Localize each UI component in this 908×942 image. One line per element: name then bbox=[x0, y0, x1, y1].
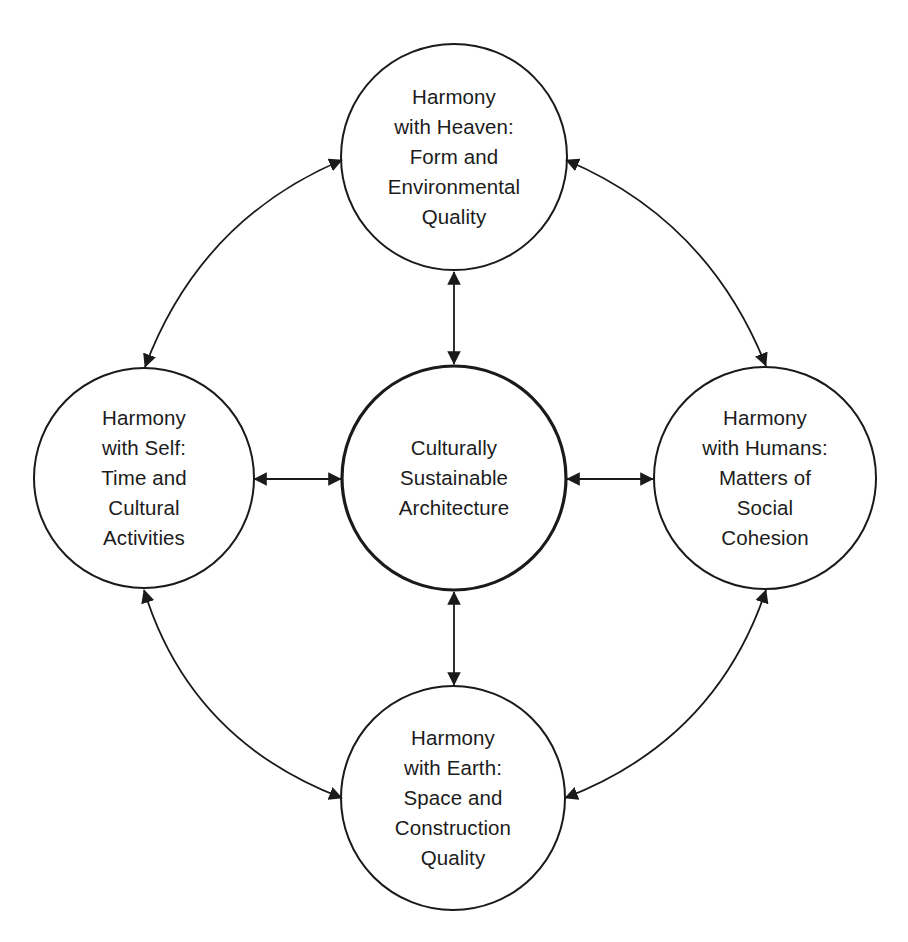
node-label-heaven: Harmony with Heaven: Form and Environmen… bbox=[341, 44, 567, 270]
label-line: Cultural bbox=[108, 493, 179, 523]
label-line: Space and bbox=[404, 783, 503, 813]
label-line: Environmental bbox=[388, 172, 520, 202]
label-line: Cohesion bbox=[721, 523, 808, 553]
label-line: Harmony bbox=[102, 403, 186, 433]
label-line: with Heaven: bbox=[394, 112, 514, 142]
label-line: Time and bbox=[101, 463, 187, 493]
label-line: Activities bbox=[103, 523, 185, 553]
label-line: Quality bbox=[421, 843, 486, 873]
arrow-humans-earth bbox=[565, 590, 766, 798]
label-line: Sustainable bbox=[400, 463, 508, 493]
label-line: Construction bbox=[395, 813, 511, 843]
label-line: Form and bbox=[410, 142, 499, 172]
arrow-heaven-humans bbox=[566, 160, 766, 366]
node-label-humans: Harmony with Humans: Matters of Social C… bbox=[654, 367, 876, 589]
label-line: with Humans: bbox=[702, 433, 827, 463]
node-label-center: Culturally Sustainable Architecture bbox=[342, 366, 566, 590]
label-line: with Earth: bbox=[404, 753, 502, 783]
node-label-self: Harmony with Self: Time and Cultural Act… bbox=[34, 368, 254, 588]
label-line: Architecture bbox=[399, 493, 510, 523]
label-line: Culturally bbox=[411, 433, 497, 463]
arrow-self-earth bbox=[144, 590, 342, 798]
label-line: with Self: bbox=[102, 433, 186, 463]
label-line: Social bbox=[737, 493, 793, 523]
label-line: Harmony bbox=[411, 723, 495, 753]
label-line: Harmony bbox=[723, 403, 807, 433]
node-label-earth: Harmony with Earth: Space and Constructi… bbox=[341, 686, 565, 910]
arrow-heaven-self bbox=[145, 160, 342, 367]
label-line: Harmony bbox=[412, 82, 496, 112]
label-line: Matters of bbox=[719, 463, 811, 493]
label-line: Quality bbox=[422, 202, 487, 232]
